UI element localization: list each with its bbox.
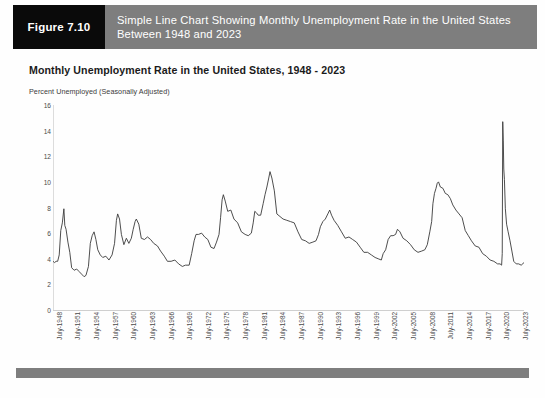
x-tick-label-july-1987: July-1987	[298, 312, 305, 340]
x-tick-label-july-1948: July-1948	[56, 312, 63, 340]
bottom-rule	[16, 368, 529, 378]
figure-page: Figure 7.10 Simple Line Chart Showing Mo…	[0, 0, 545, 398]
x-tick-label-july-1978: July-1978	[242, 312, 249, 340]
x-tick-label-july-1963: July-1963	[149, 312, 156, 340]
x-tick-label-july-1960: July-1960	[130, 312, 137, 340]
x-tick-label-july-2002: July-2002	[391, 312, 398, 340]
y-tick-label-16: 16	[29, 102, 51, 109]
y-tick-label-4: 4	[29, 255, 51, 262]
x-tick-label-july-1966: July-1966	[168, 312, 175, 340]
x-tick-label-july-2008: July-2008	[429, 312, 436, 340]
x-tick-label-july-2017: July-2017	[485, 312, 492, 340]
chart-title: Monthly Unemployment Rate in the United …	[29, 64, 345, 76]
line-plot	[53, 105, 524, 310]
x-tick-label-july-1999: July-1999	[373, 312, 380, 340]
x-tick-label-july-1972: July-1972	[205, 312, 212, 340]
x-tick-label-july-1984: July-1984	[279, 312, 286, 340]
x-tick-label-july-1996: July-1996	[354, 312, 361, 340]
chart-plot-area: 0246810121416 July-1948July-1951July-195…	[29, 105, 524, 360]
x-tick-label-july-2023: July-2023	[522, 312, 529, 340]
figure-header: Figure 7.10 Simple Line Chart Showing Mo…	[13, 5, 537, 49]
series-line-unemployment-rate	[53, 122, 524, 277]
y-tick-label-8: 8	[29, 204, 51, 211]
x-tick-label-july-1969: July-1969	[186, 312, 193, 340]
x-axis-tick-labels: July-1948July-1951July-1954July-1957July…	[53, 312, 524, 360]
x-axis-line	[53, 310, 524, 311]
x-tick-label-july-1993: July-1993	[335, 312, 342, 340]
y-tick-label-10: 10	[29, 178, 51, 185]
x-tick-label-july-2011: July-2011	[447, 312, 454, 339]
chart-subtitle: Percent Unemployed (Seasonally Adjusted)	[29, 87, 170, 96]
x-tick-label-july-2020: July-2020	[503, 312, 510, 340]
figure-number-badge: Figure 7.10	[13, 5, 105, 49]
y-tick-label-0: 0	[29, 307, 51, 314]
y-tick-label-6: 6	[29, 230, 51, 237]
y-axis-tick-labels: 0246810121416	[29, 105, 51, 317]
x-tick-label-july-1981: July-1981	[261, 312, 268, 340]
y-tick-label-12: 12	[29, 153, 51, 160]
x-tick-label-july-1990: July-1990	[317, 312, 324, 340]
x-tick-label-july-2005: July-2005	[410, 312, 417, 340]
x-tick-label-july-1975: July-1975	[223, 312, 230, 340]
unemployment-line-svg	[53, 105, 524, 310]
x-tick-label-july-2014: July-2014	[466, 312, 473, 340]
x-tick-label-july-1954: July-1954	[93, 312, 100, 340]
figure-caption: Simple Line Chart Showing Monthly Unempl…	[105, 5, 537, 49]
y-tick-label-2: 2	[29, 281, 51, 288]
x-tick-label-july-1957: July-1957	[112, 312, 119, 340]
x-tick-label-july-1951: July-1951	[74, 312, 81, 340]
y-tick-label-14: 14	[29, 127, 51, 134]
